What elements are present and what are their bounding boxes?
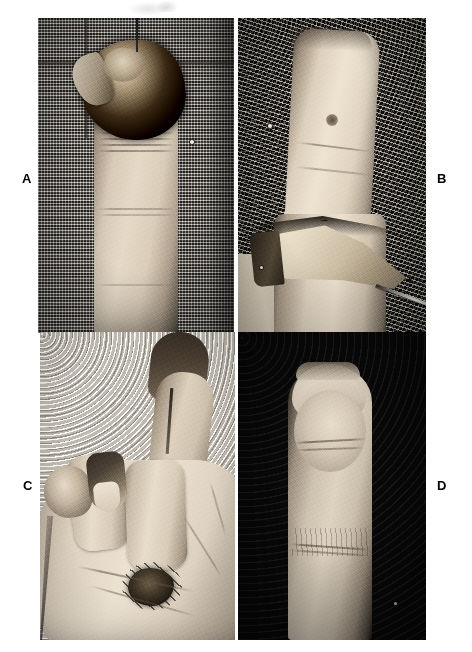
panel-a-photo xyxy=(38,18,234,333)
panel-a-suture-thread xyxy=(136,18,138,52)
scan-artifact-smudge xyxy=(128,2,168,16)
panel-b-highlight-speck xyxy=(268,124,272,128)
panel-c-photo xyxy=(40,332,235,640)
panel-a-highlight-speck xyxy=(190,140,194,144)
panel-b-flap-base xyxy=(249,231,284,288)
panel-c-finger-ring xyxy=(124,459,188,571)
panel-label-c: C xyxy=(23,479,32,492)
panel-d-photo xyxy=(238,332,426,640)
panel-d-flap-bulge xyxy=(294,390,366,472)
panel-b-scar-mark xyxy=(326,114,338,126)
panel-label-b: B xyxy=(437,172,446,185)
panel-b-finger-distal-shadow xyxy=(291,26,372,52)
panel-d-highlight-speck xyxy=(394,602,397,605)
panel-a-edge-shadow xyxy=(208,18,234,333)
panel-d-skin-texture xyxy=(292,528,368,556)
panel-label-a: A xyxy=(22,172,31,185)
scan-artifact-smudge-secondary xyxy=(156,0,178,12)
panel-b-photo xyxy=(238,18,426,333)
figure-plate: A B C D xyxy=(0,0,472,652)
panel-d-tip-cap xyxy=(296,362,360,380)
panel-label-d: D xyxy=(437,479,446,492)
panel-b-highlight-speck-secondary xyxy=(260,266,263,269)
